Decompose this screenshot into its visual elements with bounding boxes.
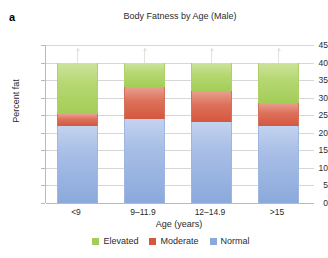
bar-group-gt15 — [258, 63, 299, 203]
gridline-45 — [46, 45, 314, 46]
y-tick-mark — [41, 203, 45, 204]
legend-swatch-normal-icon — [210, 238, 217, 245]
panel-letter: a — [9, 11, 15, 23]
bar-segment-moderate — [124, 87, 165, 119]
legend-swatch-moderate-icon — [149, 238, 156, 245]
bar-pointer-icon — [77, 48, 78, 63]
legend-label-elevated: Elevated — [103, 236, 138, 246]
bar-segment-moderate — [57, 114, 98, 126]
bar-segment-normal — [191, 122, 232, 204]
legend-swatch-elevated-icon — [92, 238, 99, 245]
bar-pointer-icon — [278, 48, 279, 63]
bar-segment-normal — [57, 126, 98, 203]
bar-segment-elevated — [124, 63, 165, 88]
bar-segment-moderate — [258, 103, 299, 127]
legend-label-normal: Normal — [221, 236, 250, 246]
bar-segment-normal — [124, 119, 165, 203]
bar-segment-elevated — [258, 63, 299, 103]
chart-title: Body Fatness by Age (Male) — [55, 11, 305, 21]
bar-group-lt9 — [57, 63, 98, 203]
bar-segment-normal — [258, 126, 299, 203]
x-tick-label-gt15: >15 — [237, 207, 317, 217]
bar-pointer-icon — [144, 48, 145, 63]
figure-panel: a Body Fatness by Age (Male) Percent fat… — [0, 0, 328, 258]
x-axis-title: Age (years) — [45, 219, 313, 229]
y-axis-title: Percent fat — [11, 41, 21, 161]
legend-item-elevated[interactable]: Elevated — [92, 236, 138, 246]
plot-area — [45, 45, 313, 203]
bar-segment-elevated — [191, 63, 232, 91]
bar-segment-moderate — [191, 91, 232, 122]
chart-legend: Elevated Moderate Normal — [45, 236, 297, 246]
legend-label-moderate: Moderate — [160, 236, 198, 246]
bar-pointer-icon — [211, 48, 212, 63]
legend-item-normal[interactable]: Normal — [210, 236, 250, 246]
bar-segment-elevated — [57, 63, 98, 114]
legend-item-moderate[interactable]: Moderate — [149, 236, 198, 246]
gridline-0 — [46, 203, 314, 204]
bar-group-12-14.9 — [191, 63, 232, 203]
bar-group-9-11.9 — [124, 63, 165, 203]
